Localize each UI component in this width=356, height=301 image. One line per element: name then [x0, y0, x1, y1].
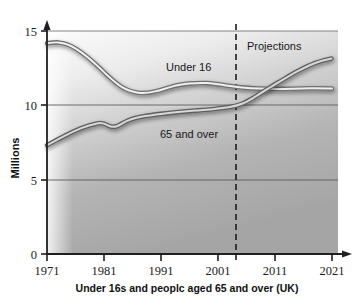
x-tick-label-1971: 1971: [35, 264, 60, 278]
y-tick-label-10: 10: [25, 99, 38, 113]
projections-label: Projections: [247, 40, 302, 52]
y-tick-label-5: 5: [31, 174, 37, 188]
chart-caption: Under 16s and peoplc aged 65 and over (U…: [76, 282, 299, 294]
series-label-under-16: Under 16: [166, 61, 211, 73]
series-label-65-and-over: 65 and over: [160, 128, 218, 140]
x-axis-arrow: [342, 250, 352, 257]
x-tick-label-2011: 2011: [263, 264, 288, 278]
y-axis-arrow: [43, 20, 50, 30]
y-tick-label-15: 15: [25, 25, 38, 39]
x-tick-label-1981: 1981: [92, 264, 117, 278]
y-axis-title: Millions: [9, 138, 21, 179]
chart-figure: 15 10 5 0 1971 1981 1991 2001 2011 2021 …: [0, 0, 356, 301]
line-chart: 15 10 5 0 1971 1981 1991 2001 2011 2021 …: [0, 0, 356, 301]
y-tick-label-0: 0: [31, 248, 37, 262]
x-tick-label-1991: 1991: [149, 264, 174, 278]
x-tick-label-2021: 2021: [320, 264, 345, 278]
x-tick-label-2001: 2001: [206, 264, 231, 278]
